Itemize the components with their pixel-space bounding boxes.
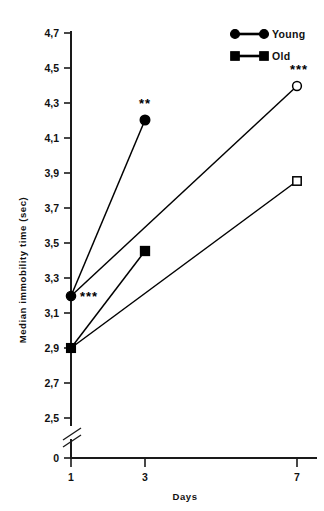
- old-point-day1: [67, 344, 76, 353]
- x-axis-title: Days: [172, 491, 197, 502]
- legend-young-marker-left: [231, 30, 240, 39]
- y-tick-label-4-3: 4,3: [44, 97, 59, 109]
- significance-young-day3: **: [139, 96, 151, 111]
- young-point-day1: [66, 291, 75, 300]
- y-tick-label-3-1: 3,1: [44, 307, 59, 319]
- legend-label-young: Young: [272, 28, 305, 40]
- legend-label-old: Old: [272, 50, 290, 62]
- immobility-time-line-chart: 4,7 4,5 4,3 4,1 3,9 3,7 3,5 3,3 3,1 2,9 …: [0, 0, 324, 511]
- x-tick-label-1: 1: [68, 471, 74, 483]
- x-tick-label-3: 3: [142, 471, 148, 483]
- legend-old-marker-right: [260, 52, 268, 60]
- legend-old-marker-left: [231, 52, 239, 60]
- y-tick-label-3-3: 3,3: [44, 272, 59, 284]
- y-tick-label-2-5: 2,5: [44, 412, 59, 424]
- significance-young-day7: ***: [290, 62, 308, 77]
- y-tick-label-4-7: 4,7: [44, 27, 59, 39]
- old-point-day3: [141, 247, 150, 256]
- y-tick-label-2-9: 2,9: [44, 342, 59, 354]
- y-tick-label-3-7: 3,7: [44, 202, 59, 214]
- y-tick-label-0: 0: [53, 452, 59, 464]
- legend-young-marker-right: [260, 30, 269, 39]
- y-tick-label-4-5: 4,5: [44, 62, 59, 74]
- significance-young-day1: ***: [80, 289, 98, 304]
- y-tick-label-4-1: 4,1: [44, 132, 59, 144]
- y-tick-label-3-9: 3,9: [44, 167, 59, 179]
- y-tick-label-2-7: 2,7: [44, 377, 59, 389]
- legend-item-old[interactable]: Old: [231, 50, 291, 62]
- young-point-day3: [140, 115, 150, 125]
- young-point-day7: [293, 82, 302, 91]
- chart-background: [0, 0, 324, 511]
- y-axis-title: Median immobility time (sec): [17, 197, 28, 344]
- old-point-day7: [293, 177, 301, 185]
- y-tick-label-3-5: 3,5: [44, 237, 59, 249]
- x-tick-label-7: 7: [294, 471, 300, 483]
